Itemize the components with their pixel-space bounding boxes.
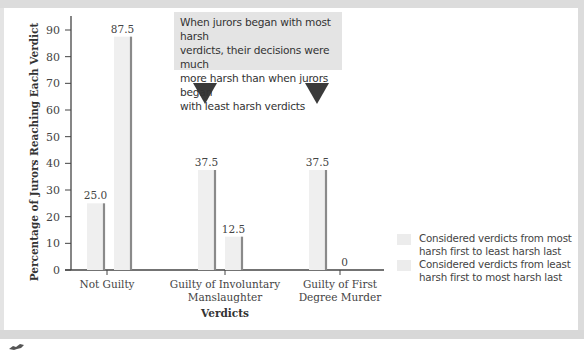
y-tick-label: 10 <box>46 237 60 250</box>
y-tick-label: 70 <box>46 77 60 90</box>
publisher-logo-icon <box>8 343 26 351</box>
x-tick-label: Guilty of Involuntary <box>170 278 280 290</box>
legend-label: Considered verdicts from most <box>419 232 577 245</box>
y-tick-label: 20 <box>46 211 60 224</box>
bar-value-label: 25.0 <box>84 189 107 201</box>
annotation-callout: When jurors began with most harsh verdic… <box>174 12 342 70</box>
callout-line: When jurors began with most harsh <box>180 15 336 43</box>
bar-value-label: 0 <box>341 256 348 268</box>
y-tick-label: 50 <box>46 131 60 144</box>
bar-value-label: 12.5 <box>222 223 245 235</box>
x-tick-label: Degree Murder <box>299 291 383 303</box>
bottom-frame-strip <box>0 330 584 339</box>
legend-label: harsh first to least harsh last <box>419 245 577 258</box>
legend-item-most-harsh-first: Considered verdicts from most harsh firs… <box>397 232 577 258</box>
chart-legend: Considered verdicts from most harsh firs… <box>397 232 577 284</box>
y-tick-label: 0 <box>53 264 60 277</box>
y-tick-label: 80 <box>46 51 60 64</box>
legend-swatch <box>397 234 411 245</box>
y-tick-label: 60 <box>46 104 60 117</box>
right-frame-strip <box>578 8 584 330</box>
legend-item-least-harsh-first: Considered verdicts from least harsh fir… <box>397 258 577 284</box>
y-tick-label: 90 <box>46 24 60 37</box>
top-frame-strip <box>0 0 584 8</box>
bar <box>225 237 242 270</box>
bar <box>198 170 215 270</box>
callout-line: with least harsh verdicts <box>180 99 336 113</box>
bar-value-label: 37.5 <box>195 156 218 168</box>
y-tick-label: 40 <box>46 157 60 170</box>
y-axis-title: Percentage of Jurors Reaching Each Verdi… <box>28 23 40 282</box>
x-axis-title: Verdicts <box>200 307 249 319</box>
x-tick-label: Manslaughter <box>188 291 263 303</box>
x-tick-label: Guilty of First <box>303 278 378 290</box>
bar <box>309 170 326 270</box>
legend-label: harsh first to most harsh last <box>419 271 577 284</box>
bar <box>87 203 104 270</box>
callout-line: verdicts, their decisions were much <box>180 43 336 71</box>
legend-swatch <box>397 260 411 271</box>
legend-label: Considered verdicts from least <box>419 258 577 271</box>
x-tick-label: Not Guilty <box>79 278 134 290</box>
callout-line: more harsh than when jurors began <box>180 71 336 99</box>
bar-value-label: 37.5 <box>306 156 329 168</box>
bar-value-label: 87.5 <box>111 23 134 35</box>
bar <box>114 37 131 270</box>
y-tick-label: 30 <box>46 184 60 197</box>
